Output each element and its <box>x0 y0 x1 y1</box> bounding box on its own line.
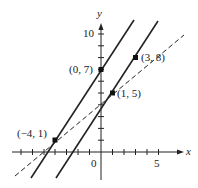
point-1-5 <box>110 91 115 96</box>
point-label-0-7: (0, 7) <box>69 64 93 75</box>
solid-line-b <box>56 21 158 178</box>
x-axis-arrow-icon <box>177 150 184 155</box>
y-axis-arrow-icon <box>99 23 104 30</box>
point-3-8 <box>133 55 138 60</box>
x-axis-label: x <box>186 146 191 157</box>
point-label-1-5: (1, 5) <box>117 88 141 99</box>
solid-line-a <box>31 20 134 178</box>
y-axis-label: y <box>97 8 102 19</box>
x-tick-label-5: 5 <box>154 158 160 169</box>
point-0-7 <box>99 67 104 72</box>
x-tick-label-0: 0 <box>91 158 97 169</box>
point-label-3-8: (3, 8) <box>141 52 165 63</box>
point-m4-1 <box>53 138 58 143</box>
point-label-m4-1: (−4, 1) <box>17 128 47 139</box>
graph-canvas <box>0 0 198 188</box>
y-tick-label-10: 10 <box>83 28 94 39</box>
